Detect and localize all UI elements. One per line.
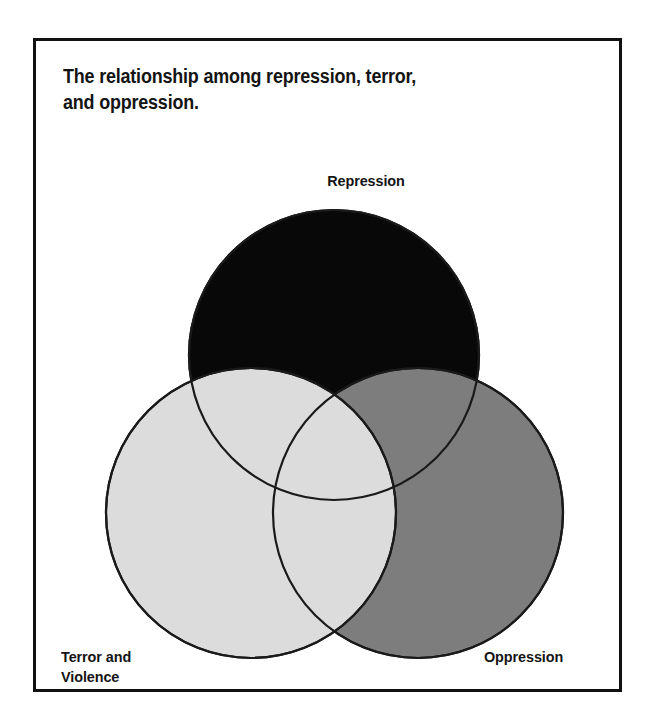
venn-label-repression: Repression [282, 171, 449, 191]
figure-frame: The relationship among repression, terro… [33, 38, 622, 692]
venn-label-terror-and-violence: Terror and Violence [61, 647, 219, 687]
venn-circle-terror-and-violence[interactable] [106, 368, 396, 658]
venn-circles-group [36, 41, 625, 695]
venn-label-oppression: Oppression [484, 647, 614, 667]
venn-diagram: Repression Terror and Violence Oppressio… [36, 41, 625, 695]
